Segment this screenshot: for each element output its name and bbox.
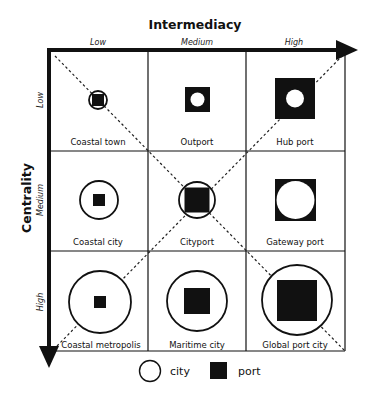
cell-cityport: Cityport — [179, 182, 215, 247]
cell-outport: Outport — [181, 87, 215, 147]
y-axis-title: Centrality — [19, 163, 34, 233]
port-square-icon — [93, 194, 105, 206]
port-city-typology-diagram: Intermediacy Centrality Low Medium High … — [0, 0, 372, 399]
legend-port-label: port — [238, 365, 261, 378]
y-axis-arrowhead-icon — [39, 346, 59, 368]
legend-city-circle-icon — [140, 361, 161, 382]
cell-coastal-metropolis: Coastal metropolis — [61, 271, 141, 350]
cell-coastal-town: Coastal town — [70, 91, 125, 147]
legend: city port — [140, 361, 262, 382]
cell-label: Outport — [181, 137, 215, 147]
port-square-icon — [184, 288, 210, 314]
cell-global-port-city: Global port city — [262, 265, 332, 350]
cell-label: Hub port — [276, 137, 314, 147]
x-tick-high: High — [285, 38, 303, 47]
x-tick-low: Low — [90, 38, 106, 47]
cell-hub-port: Hub port — [275, 78, 315, 147]
city-circle-icon — [191, 93, 205, 107]
x-axis-title: Intermediacy — [149, 17, 242, 32]
city-circle-icon — [286, 90, 304, 108]
cell-label: Maritime city — [169, 340, 225, 350]
x-tick-medium: Medium — [181, 38, 213, 47]
y-tick-medium: Medium — [36, 184, 45, 216]
cell-label: Global port city — [262, 340, 327, 350]
city-circle-icon — [277, 181, 315, 219]
port-square-icon — [94, 296, 106, 308]
port-square-icon — [92, 94, 104, 106]
cell-label: Cityport — [180, 237, 215, 247]
legend-city-label: city — [170, 365, 190, 378]
y-tick-low: Low — [36, 92, 45, 108]
cell-coastal-city: Coastal city — [73, 181, 123, 247]
y-tick-high: High — [36, 293, 45, 311]
cell-label: Gateway port — [266, 237, 324, 247]
cell-maritime-city: Maritime city — [167, 271, 227, 350]
cell-gateway-port: Gateway port — [266, 179, 324, 247]
x-axis-arrowhead-icon — [336, 40, 358, 60]
port-square-icon — [185, 188, 210, 213]
port-square-icon — [277, 280, 317, 321]
cell-label: Coastal town — [70, 137, 125, 147]
legend-port-square-icon — [210, 362, 227, 379]
cell-label: Coastal metropolis — [61, 340, 141, 350]
cell-label: Coastal city — [73, 237, 123, 247]
